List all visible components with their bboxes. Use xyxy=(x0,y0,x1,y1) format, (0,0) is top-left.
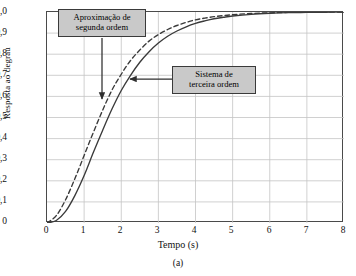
annotation-arrows xyxy=(0,0,356,276)
callout-line-1: Sistema de xyxy=(176,69,252,79)
callout-line-2: segunda ordem xyxy=(62,22,142,32)
figure-step-response: 1,0 0,9 0,8 0,7 0,6 0,5 0,4 0,3 0,2 0,1 … xyxy=(0,0,356,276)
callout-second-order-approximation: Aproximação de segunda ordem xyxy=(58,9,146,37)
callout-line-1: Aproximação de xyxy=(62,12,142,22)
callout-third-order-system: Sistema de terceira ordem xyxy=(172,66,256,94)
callout-line-2: terceira ordem xyxy=(176,79,252,89)
